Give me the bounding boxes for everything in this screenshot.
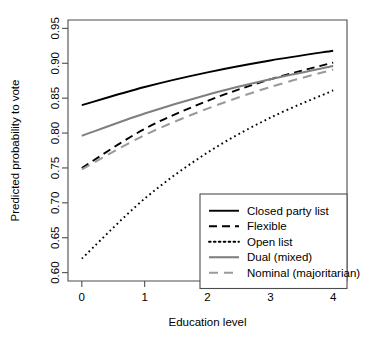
- chart-legend: Closed party listFlexibleOpen listDual (…: [200, 194, 360, 289]
- legend-label: Closed party list: [247, 205, 330, 217]
- legend-label: Dual (mixed): [247, 251, 312, 263]
- x-tick-label: 2: [204, 291, 210, 303]
- x-tick-label: 0: [79, 291, 85, 303]
- x-axis-title: Education level: [169, 316, 247, 328]
- y-tick-label: 0.85: [49, 87, 61, 109]
- y-tick-label: 0.80: [49, 122, 61, 144]
- legend-label: Open list: [247, 236, 293, 248]
- y-tick-label: 0.60: [49, 261, 61, 283]
- legend-label: Flexible: [247, 220, 287, 232]
- chart-figure: 0.600.650.700.750.800.850.900.95 01234 E…: [0, 0, 369, 344]
- x-tick-label: 3: [267, 291, 273, 303]
- y-tick-label: 0.90: [49, 52, 61, 74]
- line-chart: 0.600.650.700.750.800.850.900.95 01234 E…: [0, 0, 369, 344]
- y-tick-label: 0.75: [49, 157, 61, 179]
- y-tick-label: 0.70: [49, 192, 61, 214]
- x-tick-label: 4: [330, 291, 337, 303]
- y-tick-label: 0.65: [49, 227, 61, 249]
- x-tick-label: 1: [141, 291, 147, 303]
- y-axis-title: Predicted probability to vote: [9, 80, 21, 222]
- legend-label: Nominal (majoritarian): [247, 267, 360, 279]
- y-tick-label: 0.95: [49, 17, 61, 39]
